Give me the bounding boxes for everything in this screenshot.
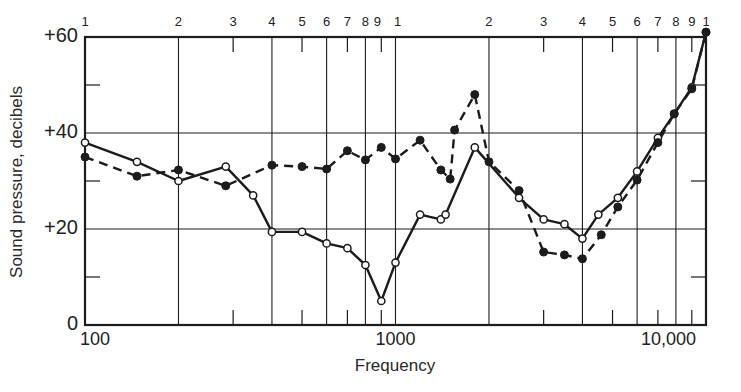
filled-circle-marker: [222, 182, 230, 190]
filled-circle-marker: [268, 161, 276, 169]
open-circle-marker: [323, 240, 330, 247]
top-cycle-label: 7: [344, 14, 351, 29]
top-cycle-label: 5: [609, 14, 616, 29]
open-circle-marker: [561, 221, 568, 228]
filled-circle-marker: [578, 255, 586, 263]
top-cycle-label: 9: [688, 14, 695, 29]
filled-circle-marker: [298, 163, 306, 171]
top-cycle-label: 4: [579, 14, 586, 29]
open-circle-marker: [222, 163, 229, 170]
top-cycle-label: 1: [702, 14, 709, 29]
x-tick-label: 1000: [376, 329, 416, 350]
filled-circle-marker: [540, 248, 548, 256]
open-circle-marker: [614, 194, 621, 201]
top-cycle-label: 3: [230, 14, 237, 29]
open-circle-marker: [133, 158, 140, 165]
filled-circle-marker: [688, 85, 696, 93]
open-circle-marker: [515, 194, 522, 201]
filled-circle-marker: [702, 28, 710, 36]
filled-circle-marker: [377, 143, 385, 151]
y-axis-label: Sound pressure, decibels: [4, 38, 30, 326]
filled-circle-marker: [471, 91, 479, 99]
open-circle-marker: [250, 192, 257, 199]
x-axis-label: Frequency: [0, 356, 741, 376]
top-cycle-label: 1: [81, 14, 88, 29]
open-circle-marker: [416, 211, 423, 218]
plot-area: [0, 0, 741, 392]
filled-circle-marker: [323, 165, 331, 173]
open-circle-marker: [378, 297, 385, 304]
filled-circle-marker: [654, 139, 662, 147]
open-circle-marker: [392, 259, 399, 266]
filled-circle-marker: [133, 172, 141, 180]
top-cycle-label: 1: [394, 14, 401, 29]
open-circle-marker: [471, 144, 478, 151]
open-circle-marker: [81, 139, 88, 146]
open-circle-marker: [175, 177, 182, 184]
y-tick-label: 0: [8, 312, 78, 335]
filled-circle-marker: [633, 176, 641, 184]
top-cycle-label: 7: [654, 14, 661, 29]
filled-circle-marker: [614, 203, 622, 211]
filled-circle-marker: [446, 175, 454, 183]
top-cycle-label: 2: [485, 14, 492, 29]
y-axis-label-text: Sound pressure, decibels: [7, 86, 27, 278]
top-cycle-label: 8: [672, 14, 679, 29]
open-circle-marker: [579, 235, 586, 242]
open-circle-marker: [344, 245, 351, 252]
y-tick-label: +20: [8, 216, 78, 239]
open-circle-marker: [362, 261, 369, 268]
open-circle-marker: [268, 228, 275, 235]
open-circle-marker: [634, 168, 641, 175]
top-cycle-label: 6: [323, 14, 330, 29]
top-cycle-label: 8: [362, 14, 369, 29]
x-tick-label: 100: [80, 329, 110, 350]
filled-circle-marker: [416, 136, 424, 144]
x-tick-label: 10,000: [641, 329, 696, 350]
top-cycle-label: 2: [175, 14, 182, 29]
top-cycle-label: 4: [268, 14, 275, 29]
filled-circle-marker: [392, 155, 400, 163]
y-tick-label: +60: [8, 24, 78, 47]
open-circle-marker: [298, 228, 305, 235]
y-tick-label: +40: [8, 120, 78, 143]
filled-circle-marker: [560, 251, 568, 259]
top-cycle-label: 3: [540, 14, 547, 29]
filled-circle-marker: [437, 166, 445, 174]
open-circle-marker: [442, 211, 449, 218]
filled-circle-marker: [451, 126, 459, 134]
filled-circle-marker: [174, 166, 182, 174]
top-cycle-label: 5: [298, 14, 305, 29]
filled-circle-marker: [361, 156, 369, 164]
filled-circle-marker: [670, 110, 678, 118]
frequency-response-chart: Sound pressure, decibels Frequency +60+4…: [0, 0, 741, 392]
filled-circle-marker: [81, 153, 89, 161]
top-cycle-label: 9: [374, 14, 381, 29]
filled-circle-marker: [485, 158, 493, 166]
open-circle-marker: [595, 211, 602, 218]
top-cycle-label: 6: [633, 14, 640, 29]
open-circle-marker: [540, 216, 547, 223]
filled-circle-marker: [597, 231, 605, 239]
filled-circle-marker: [343, 147, 351, 155]
filled-circle-marker: [515, 187, 523, 195]
